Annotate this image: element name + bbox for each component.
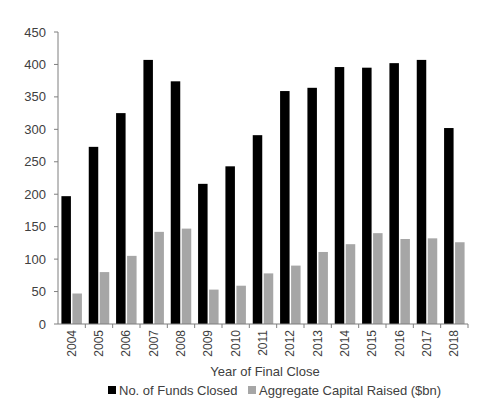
y-tick-label: 50 — [32, 284, 46, 299]
y-tick-label: 200 — [24, 187, 46, 202]
legend-swatch — [108, 386, 116, 394]
bar-funds-closed-2015 — [362, 68, 372, 324]
y-tick-label: 450 — [24, 25, 46, 40]
x-tick-label: 2012 — [283, 330, 297, 357]
x-tick-label: 2009 — [201, 330, 215, 357]
bar-funds-closed-2010 — [225, 166, 235, 324]
x-tick-label: 2005 — [92, 330, 106, 357]
bar-capital-raised-2010 — [236, 286, 246, 324]
bar-capital-raised-2004 — [72, 294, 82, 324]
x-tick-label: 2006 — [119, 330, 133, 357]
x-tick-label: 2017 — [420, 330, 434, 357]
y-tick-label: 0 — [39, 317, 46, 332]
bar-capital-raised-2016 — [400, 239, 410, 324]
bar-capital-raised-2011 — [264, 273, 274, 324]
y-tick-label: 250 — [24, 154, 46, 169]
y-axis-ticks: 050100150200250300350400450 — [24, 25, 58, 332]
legend-swatch — [248, 386, 256, 394]
bar-funds-closed-2013 — [307, 88, 317, 324]
x-tick-label: 2013 — [311, 330, 325, 357]
bar-funds-closed-2016 — [389, 63, 399, 324]
x-tick-label: 2016 — [393, 330, 407, 357]
bar-funds-closed-2011 — [253, 135, 263, 324]
x-tick-label: 2018 — [447, 330, 461, 357]
bar-funds-closed-2018 — [444, 128, 454, 324]
y-tick-label: 100 — [24, 252, 46, 267]
bar-funds-closed-2017 — [417, 60, 427, 324]
bar-funds-closed-2004 — [61, 196, 71, 324]
x-tick-label: 2014 — [338, 330, 352, 357]
y-tick-label: 150 — [24, 219, 46, 234]
bar-capital-raised-2005 — [100, 272, 110, 324]
legend-label: Aggregate Capital Raised ($bn) — [259, 383, 441, 398]
x-tick-label: 2007 — [147, 330, 161, 357]
bar-funds-closed-2008 — [171, 81, 181, 324]
bar-funds-closed-2014 — [335, 67, 345, 324]
bar-capital-raised-2007 — [154, 232, 164, 324]
bar-capital-raised-2012 — [291, 266, 301, 324]
legend-item-capital-raised: Aggregate Capital Raised ($bn) — [248, 383, 441, 398]
x-tick-label: 2008 — [174, 330, 188, 357]
bar-capital-raised-2008 — [182, 229, 192, 324]
bar-chart: 050100150200250300350400450 200420052006… — [0, 0, 488, 416]
legend: No. of Funds ClosedAggregate Capital Rai… — [108, 383, 441, 398]
legend-label: No. of Funds Closed — [119, 383, 238, 398]
bar-capital-raised-2013 — [318, 252, 328, 324]
bar-capital-raised-2009 — [209, 290, 219, 324]
bar-funds-closed-2009 — [198, 184, 208, 324]
bar-capital-raised-2006 — [127, 256, 137, 324]
y-tick-label: 350 — [24, 89, 46, 104]
y-tick-label: 400 — [24, 57, 46, 72]
x-axis-labels: 2004200520062007200820092010201120122013… — [65, 330, 462, 357]
x-tick-label: 2004 — [65, 330, 79, 357]
legend-item-funds-closed: No. of Funds Closed — [108, 383, 238, 398]
x-axis-title: Year of Final Close — [210, 364, 319, 379]
bar-funds-closed-2012 — [280, 91, 290, 324]
x-tick-label: 2011 — [256, 330, 270, 356]
bar-capital-raised-2015 — [373, 233, 383, 324]
bar-funds-closed-2005 — [89, 147, 99, 324]
x-tick-label: 2010 — [229, 330, 243, 357]
y-tick-label: 300 — [24, 122, 46, 137]
x-tick-label: 2015 — [365, 330, 379, 357]
bar-capital-raised-2014 — [346, 244, 356, 324]
bar-capital-raised-2018 — [455, 242, 465, 324]
bar-funds-closed-2006 — [116, 113, 126, 324]
bar-funds-closed-2007 — [143, 60, 153, 324]
bar-capital-raised-2017 — [428, 238, 438, 324]
bars — [61, 60, 468, 328]
